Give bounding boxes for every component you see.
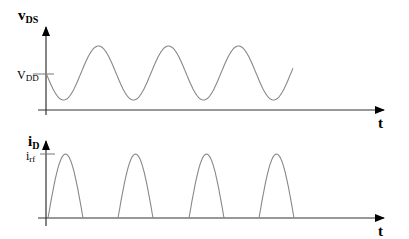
id-pulses (48, 154, 294, 218)
vds-sinusoid (46, 46, 293, 100)
top-plot: vDS VDD t (17, 7, 384, 131)
vds-label: vDS (18, 7, 39, 25)
vdd-label: VDD (17, 68, 39, 83)
bottom-plot: iD irf t (26, 133, 384, 239)
top-t-label: t (378, 115, 383, 131)
id-label: iD (28, 133, 39, 151)
bottom-t-label: t (378, 223, 383, 239)
waveform-diagram: vDS VDD t iD irf t (0, 0, 409, 239)
irf-label: irf (26, 149, 35, 164)
